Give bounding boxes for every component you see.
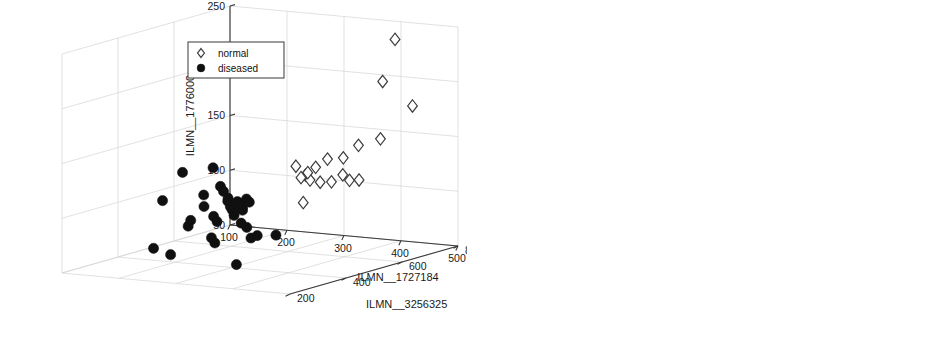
y-tick-label: 200 <box>297 292 315 304</box>
figure-root: 5010015020025010020030040050020040060080… <box>0 0 934 346</box>
data-point-normal <box>291 160 301 172</box>
data-point-normal <box>354 139 364 151</box>
data-point-diseased <box>177 167 187 177</box>
z-axis-title: ILMN__1776000 <box>184 75 196 156</box>
data-point-diseased <box>199 201 209 211</box>
data-point-diseased <box>199 190 209 200</box>
legend-label-diseased: diseased <box>218 63 258 74</box>
legend-marker-diseased <box>197 64 205 72</box>
data-point-diseased <box>183 221 193 231</box>
data-point-normal <box>390 33 400 45</box>
data-point-normal <box>408 100 418 112</box>
data-point-normal <box>323 153 333 165</box>
x-tick-label: 500 <box>448 252 466 264</box>
x-tick-label: 100 <box>220 231 238 243</box>
data-point-diseased <box>210 238 220 248</box>
z-tick-label: 150 <box>207 109 225 121</box>
data-point-diseased <box>148 243 158 253</box>
data-point-normal <box>378 75 388 87</box>
data-point-diseased <box>166 250 176 260</box>
data-point-diseased <box>242 222 252 232</box>
data-point-diseased <box>237 205 247 215</box>
data-point-diseased <box>271 230 281 240</box>
data-point-diseased <box>223 193 233 203</box>
data-point-diseased <box>244 197 254 207</box>
data-point-normal <box>338 152 348 164</box>
scatter-panel-right: 00.010.020.030.040.050.70.60.50.40.30.20… <box>467 0 934 346</box>
x-tick-label: 400 <box>391 247 409 259</box>
data-point-diseased <box>157 196 167 206</box>
data-point-diseased <box>231 259 241 269</box>
x-axis-title: ILMN__1727184 <box>357 271 438 283</box>
data-point-diseased <box>208 163 218 173</box>
data-point-diseased <box>252 230 262 240</box>
scatter-3d-axes: 00.010.020.030.040.050.70.60.50.40.30.20… <box>467 0 934 346</box>
data-point-normal <box>376 133 386 145</box>
data-point-normal <box>327 176 337 188</box>
legend-label-normal: normal <box>218 48 249 59</box>
data-point-normal <box>315 176 325 188</box>
x-tick-label: 300 <box>334 242 352 254</box>
scatter-panel-left: 5010015020025010020030040050020040060080… <box>0 0 467 346</box>
y-axis-title: ILMN__3256325 <box>366 298 447 310</box>
scatter-3d-axes: 5010015020025010020030040050020040060080… <box>0 0 467 346</box>
data-point-diseased <box>212 216 222 226</box>
data-point-normal <box>354 174 364 186</box>
z-tick-label: 250 <box>207 0 225 12</box>
data-point-normal <box>298 196 308 208</box>
legend[interactable]: normaldiseased <box>188 42 284 78</box>
